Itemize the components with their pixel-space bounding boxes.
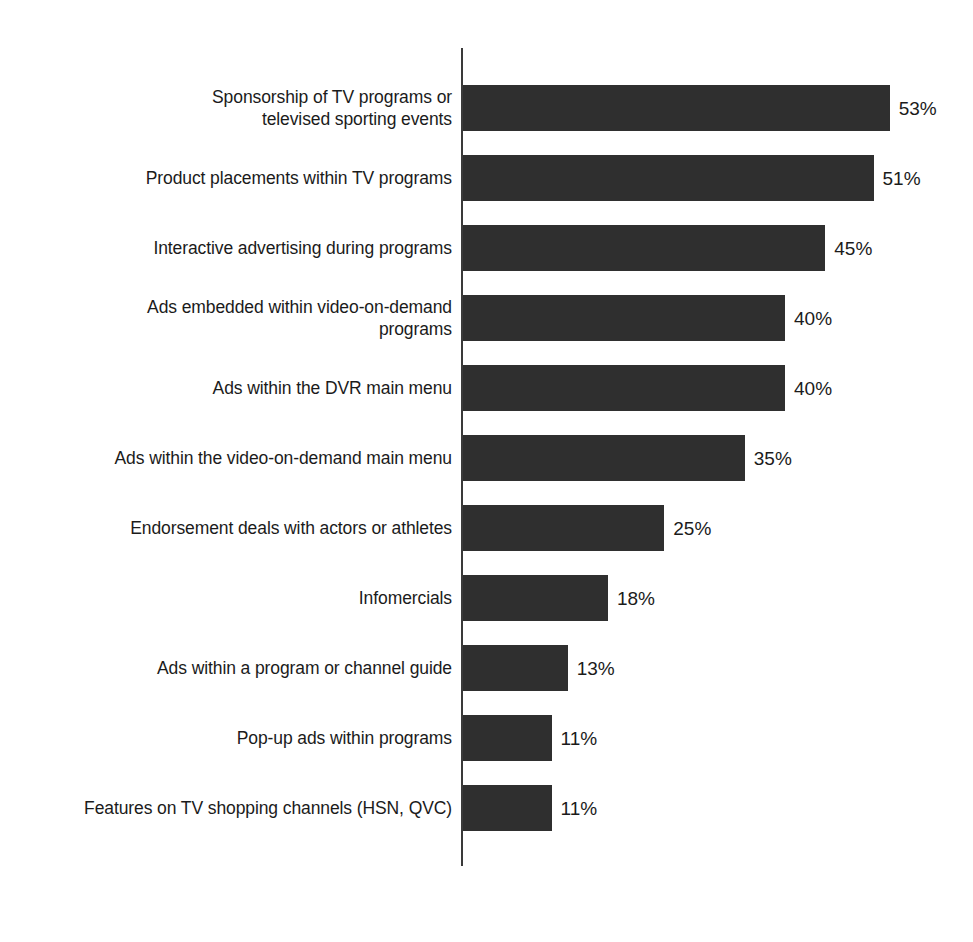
bar-track xyxy=(463,295,785,341)
bar-fill xyxy=(463,575,608,621)
bar-category-label: Endorsement deals with actors or athlete… xyxy=(32,517,452,539)
bar-track xyxy=(463,715,552,761)
bar-row: Sponsorship of TV programs or televised … xyxy=(0,85,973,131)
bar-track xyxy=(463,645,568,691)
bar-row: Ads within the DVR main menu40% xyxy=(0,365,973,411)
bar-fill xyxy=(463,295,785,341)
bar-category-label: Ads within the DVR main menu xyxy=(32,377,452,399)
bar-track xyxy=(463,225,825,271)
bar-fill xyxy=(463,715,552,761)
bar-value-label: 11% xyxy=(561,799,598,818)
bar-fill xyxy=(463,225,825,271)
bar-row: Features on TV shopping channels (HSN, Q… xyxy=(0,785,973,831)
bar-fill xyxy=(463,645,568,691)
bar-value-label: 13% xyxy=(577,659,615,678)
bar-row: Pop-up ads within programs11% xyxy=(0,715,973,761)
bar-track xyxy=(463,435,745,481)
bar-row: Interactive advertising during programs4… xyxy=(0,225,973,271)
bar-category-label: Ads within a program or channel guide xyxy=(32,657,452,679)
bar-track xyxy=(463,155,874,201)
bar-value-label: 18% xyxy=(617,589,655,608)
horizontal-bar-chart: Sponsorship of TV programs or televised … xyxy=(0,0,973,942)
bar-row: Ads embedded within video-on-demand prog… xyxy=(0,295,973,341)
bar-track xyxy=(463,575,608,621)
bar-track xyxy=(463,85,890,131)
bar-value-label: 51% xyxy=(883,169,921,188)
bar-category-label: Pop-up ads within programs xyxy=(32,727,452,749)
bar-value-label: 40% xyxy=(794,309,832,328)
bar-category-label: Infomercials xyxy=(32,587,452,609)
bar-track xyxy=(463,365,785,411)
bar-category-label: Ads embedded within video-on-demand prog… xyxy=(32,296,452,340)
bar-fill xyxy=(463,785,552,831)
bar-track xyxy=(463,785,552,831)
bar-fill xyxy=(463,435,745,481)
bar-value-label: 40% xyxy=(794,379,832,398)
bar-category-label: Features on TV shopping channels (HSN, Q… xyxy=(32,797,452,819)
bar-category-label: Sponsorship of TV programs or televised … xyxy=(32,86,452,130)
bar-fill xyxy=(463,365,785,411)
bar-value-label: 53% xyxy=(899,99,937,118)
bar-value-label: 11% xyxy=(561,729,598,748)
bar-value-label: 25% xyxy=(673,519,711,538)
bar-fill xyxy=(463,155,874,201)
bar-category-label: Interactive advertising during programs xyxy=(32,237,452,259)
bar-row: Infomercials18% xyxy=(0,575,973,621)
bar-fill xyxy=(463,505,664,551)
bar-value-label: 35% xyxy=(754,449,792,468)
bar-row: Product placements within TV programs51% xyxy=(0,155,973,201)
bar-track xyxy=(463,505,664,551)
bar-row: Endorsement deals with actors or athlete… xyxy=(0,505,973,551)
bar-row: Ads within the video-on-demand main menu… xyxy=(0,435,973,481)
bar-row: Ads within a program or channel guide13% xyxy=(0,645,973,691)
bar-fill xyxy=(463,85,890,131)
bar-category-label: Product placements within TV programs xyxy=(32,167,452,189)
bar-category-label: Ads within the video-on-demand main menu xyxy=(32,447,452,469)
bar-value-label: 45% xyxy=(834,239,872,258)
bar-rows-container: Sponsorship of TV programs or televised … xyxy=(0,0,973,942)
